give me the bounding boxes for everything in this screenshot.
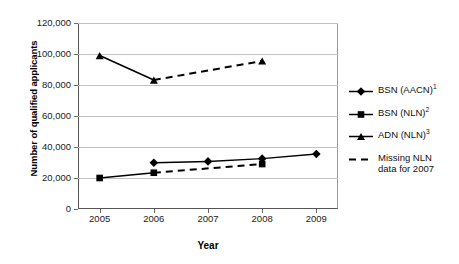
- legend-footnote-marker: 3: [426, 128, 430, 135]
- legend-item-dashed-line[interactable]: Missing NLN data for 2007: [349, 152, 457, 175]
- legend-item-label: ADN (NLN)3: [378, 129, 430, 141]
- y-axis-tick-label: 20,000: [11, 173, 71, 183]
- diamond-data-point: [312, 150, 321, 159]
- diamond-data-point: [150, 159, 159, 168]
- series-line-square: [100, 173, 154, 178]
- square-data-point: [151, 169, 158, 176]
- series-line-diamond: [154, 161, 208, 162]
- legend-footnote-marker: 1: [433, 83, 437, 90]
- legend-item-label: Missing NLN data for 2007: [378, 152, 434, 175]
- square-data-point: [96, 175, 103, 182]
- y-axis-tick-label: 120,000: [11, 18, 71, 28]
- triangle-marker-icon: [349, 129, 373, 142]
- x-axis-tick-label: 2008: [240, 214, 284, 224]
- y-axis-tick-label: 100,000: [11, 49, 71, 59]
- x-axis-tick-label: 2007: [186, 214, 230, 224]
- legend-item-diamond-marker[interactable]: BSN (AACN)1: [349, 84, 457, 97]
- diamond-data-point: [204, 157, 213, 166]
- square-marker-icon: [349, 107, 373, 120]
- triangle-data-point: [258, 57, 266, 64]
- series-line-triangle: [100, 56, 154, 80]
- chart-legend: BSN (AACN)1BSN (NLN)2ADN (NLN)3Missing N…: [349, 84, 457, 184]
- y-axis-tick-label: 80,000: [11, 80, 71, 90]
- chart-figure: Number of qualified applicants 020,00040…: [0, 0, 459, 264]
- legend-footnote-marker: 2: [426, 105, 430, 112]
- series-line-diamond: [208, 159, 262, 162]
- triangle-data-point: [96, 52, 104, 59]
- legend-item-triangle-marker[interactable]: ADN (NLN)3: [349, 129, 457, 142]
- diamond-marker-icon: [349, 84, 373, 97]
- y-axis-tick: [74, 209, 78, 210]
- legend-item-square-marker[interactable]: BSN (NLN)2: [349, 107, 457, 120]
- square-data-point: [259, 161, 266, 168]
- x-axis-tick-label: 2005: [78, 214, 122, 224]
- series-line-triangle: [154, 61, 262, 80]
- legend-item-label: BSN (NLN)2: [378, 107, 429, 119]
- x-axis-tick-label: 2009: [294, 214, 338, 224]
- y-axis-tick-label: 60,000: [11, 111, 71, 121]
- y-axis-tick-label: 40,000: [11, 142, 71, 152]
- y-axis-tick-label: 0: [11, 204, 71, 214]
- dashed-line-icon: [349, 152, 373, 165]
- x-axis-title: Year: [78, 240, 338, 251]
- series-layer: [78, 23, 338, 209]
- plot-area: [78, 23, 338, 209]
- series-line-diamond: [262, 154, 316, 159]
- legend-item-label: BSN (AACN)1: [378, 84, 437, 96]
- x-axis-tick-label: 2006: [132, 214, 176, 224]
